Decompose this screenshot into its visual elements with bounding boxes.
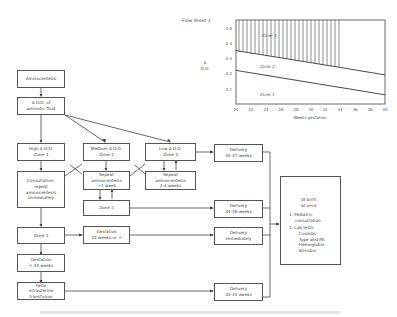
delivery-35-37-box: Delivery 35-37 weeks [214,144,263,162]
y-tick: 0.4 [226,41,233,46]
zone-1-2-boundary [236,70,385,94]
zone-2-3-boundary [236,51,385,75]
amniocentesis-box: Amniocentesis [17,70,65,88]
delivery-immediately-box: Delivery immediately [214,227,263,245]
svg-text:26: 26 [278,107,284,112]
illegible-caption [40,311,340,314]
zone2-box: Zone 2 [83,200,130,216]
zone3-label: Zone 3 [261,33,277,38]
svg-text:40: 40 [382,107,388,112]
zone1-label: Zone 1 [259,92,275,97]
svg-text:28: 28 [293,107,299,112]
y-axis-label: Δ [204,60,207,65]
high-od-zone3-box: High Δ O.D. Zone 3 [17,143,65,161]
svg-text:34: 34 [337,107,343,112]
repeat-1-week-box: Repeat amniocentesis —1 week [83,171,130,190]
delivery-34-35-box: Delivery 34-35 weeks [214,283,263,301]
svg-text:38: 38 [367,107,373,112]
y-axis-label: O.D. [200,66,209,71]
x-axis-label: Weeks gestation [293,115,327,120]
svg-text:20: 20 [233,107,239,112]
gestation-under-34-box: Gestation < 34 weeks [17,254,65,272]
svg-text:32: 32 [322,107,328,112]
y-tick: 0.3 [226,56,233,61]
gestation-34-or-more-box: Gestation 34 weeks or > [83,226,130,244]
svg-text:36: 36 [352,107,358,112]
repeat-2-4-weeks-box: Repeat amniocentesis 2-4 weeks [145,171,196,190]
y-tick: 0.1 [226,87,233,92]
consultation-box: Consultation; repeat amniocentesis immed… [17,171,65,208]
low-od-zone1-box: Low Δ O.D. Zone 1 [145,143,196,161]
svg-text:24: 24 [263,107,269,112]
y-tick: 0.2 [226,71,233,76]
zone2-label: Zone 2 [259,64,275,69]
medium-od-zone2-box: Medium Δ O.D. Zone 2 [83,143,130,161]
delivery-34-36-box: Delivery 34-36 weeks [214,200,263,218]
y-tick: 0.5 [226,26,233,31]
delta-od-box: Δ O.D. of amniotic fluid [17,97,65,115]
at-birth-box: At birth at once 1. Pediatric consultati… [280,176,341,265]
fetal-transfusion-box: Fetal intrauterine transfusion [17,282,65,300]
zone3-box: Zone 3 [17,227,65,244]
svg-text:30: 30 [308,107,314,112]
zone3-hatching [239,20,339,70]
svg-text:22: 22 [248,107,254,112]
